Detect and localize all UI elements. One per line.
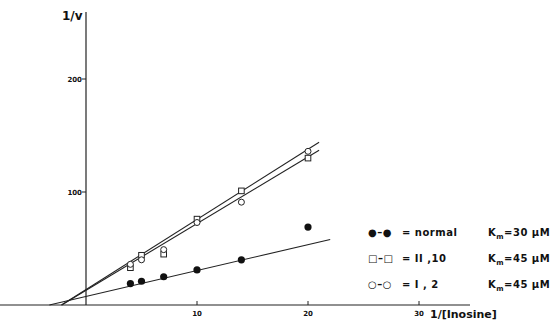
y-axis-label: 1/v bbox=[62, 9, 83, 23]
legend-item-II-10: □–□ = II ,10 Km=45 µM bbox=[368, 248, 550, 274]
fit-line bbox=[62, 150, 320, 305]
open-square-marker-icon: □–□ bbox=[368, 248, 402, 274]
filled-circle-marker-icon: ●–● bbox=[368, 222, 402, 248]
open-circle-marker-icon: ○–○ bbox=[368, 274, 402, 300]
data-point bbox=[239, 188, 245, 194]
x-tick-label: 30 bbox=[414, 310, 424, 318]
data-point bbox=[238, 256, 245, 263]
data-point bbox=[238, 199, 244, 205]
data-point bbox=[305, 148, 311, 154]
legend-item-I-2: ○–○ = I , 2 Km=45 µM bbox=[368, 274, 550, 300]
legend-km: Km=30 µM bbox=[488, 222, 550, 248]
data-point bbox=[161, 247, 167, 253]
legend-label: = II ,10 bbox=[402, 248, 488, 274]
legend: ●–● = normal Km=30 µM □–□ = II ,10 Km=45… bbox=[368, 222, 550, 300]
data-point bbox=[127, 261, 133, 267]
data-point bbox=[194, 220, 200, 226]
legend-item-normal: ●–● = normal Km=30 µM bbox=[368, 222, 550, 248]
x-tick-label: 10 bbox=[192, 310, 202, 318]
data-point bbox=[139, 257, 145, 263]
y-tick-label: 100 bbox=[67, 189, 82, 197]
fit-line bbox=[62, 142, 320, 305]
data-point bbox=[127, 280, 134, 287]
data-point bbox=[304, 223, 311, 230]
fit-line bbox=[49, 239, 330, 305]
y-tick-label: 200 bbox=[67, 76, 82, 84]
legend-label: = I , 2 bbox=[402, 274, 488, 300]
legend-km: Km=45 µM bbox=[488, 274, 550, 300]
legend-label: = normal bbox=[402, 222, 488, 248]
legend-km: Km=45 µM bbox=[488, 248, 550, 274]
data-point bbox=[138, 278, 145, 285]
x-tick-label: 20 bbox=[303, 310, 313, 318]
data-point bbox=[193, 266, 200, 273]
data-point bbox=[305, 155, 311, 161]
x-axis-label: 1/[Inosine] bbox=[430, 308, 497, 321]
data-point bbox=[160, 273, 167, 280]
